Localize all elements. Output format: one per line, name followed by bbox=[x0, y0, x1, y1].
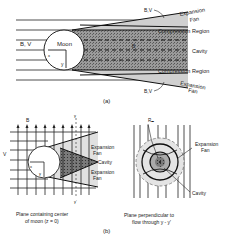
caption-b-left-1: Plane containing center bbox=[16, 211, 69, 217]
fan-right-label: Fan bbox=[201, 147, 210, 153]
caption-b: (b) bbox=[103, 228, 110, 234]
b-label: B bbox=[26, 117, 30, 123]
expansion-top-label: Expansion bbox=[179, 7, 205, 17]
bv-left-label: B, V bbox=[20, 41, 31, 47]
panel-a: B, V Moon x y B B,V Expansion Fan Compre… bbox=[16, 7, 209, 104]
rm-label: Rₘ bbox=[148, 118, 154, 123]
bv-bottom-label: B,V bbox=[144, 88, 153, 94]
y-bottom-label: y' bbox=[74, 199, 77, 204]
cavity-b-left-label: Cavity bbox=[98, 159, 112, 165]
y-top-label: y bbox=[74, 113, 76, 118]
expansion-2b-label: Fan bbox=[93, 175, 102, 181]
cavity-right-label: Cavity bbox=[192, 190, 206, 196]
lunar-wake-diagram: B, V Moon x y B B,V Expansion Fan Compre… bbox=[0, 0, 236, 241]
caption-a: (a) bbox=[103, 98, 110, 104]
caption-b-left-2: of moon (z = 0) bbox=[25, 218, 59, 224]
expansion-1b-label: Fan bbox=[93, 150, 102, 156]
y-axis-label-b: y bbox=[39, 171, 41, 176]
x-axis-label: x bbox=[48, 53, 50, 58]
cavity-label: Cavity bbox=[192, 48, 208, 54]
panel-b-right: Rₘ Expansion Fan Cavity Plane perpendicu… bbox=[124, 118, 219, 225]
fan-top-label: Fan bbox=[189, 15, 199, 23]
compression-top-label: Compression Region bbox=[158, 28, 209, 34]
caption-b-right-2: flow through y - y' bbox=[132, 219, 171, 225]
moon-label: Moon bbox=[57, 41, 72, 47]
panel-b-left: B V y y' x y Expansion Fan Cavity Expans… bbox=[3, 113, 115, 224]
x-axis-label-b: x bbox=[30, 164, 32, 169]
compression-bottom-label: Compression Region bbox=[158, 68, 209, 74]
bv-top-label: B,V bbox=[144, 7, 153, 13]
v-label: V bbox=[3, 151, 7, 157]
caption-b-right-1: Plane perpendicular to bbox=[124, 212, 174, 218]
fan-bottom-label: Fan bbox=[188, 87, 198, 95]
